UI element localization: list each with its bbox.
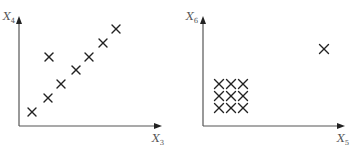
x-marker-icon [215,92,224,101]
left-x-axis-arrow-icon [154,123,162,129]
left-data-points [28,25,120,116]
x-marker-icon [28,108,36,116]
x-marker-icon [72,66,80,74]
x-marker-icon [57,80,65,88]
scatter-figure: X4 X3 X6 X5 [0,0,364,151]
right-data-points [215,45,329,113]
x-marker-icon [227,92,236,101]
x-marker-icon [239,104,248,113]
left-y-axis-label: X4 [2,10,16,25]
x-marker-icon [320,45,329,54]
x-marker-icon [99,39,107,47]
x-marker-icon [215,104,224,113]
x-marker-icon [45,53,53,61]
x-marker-icon [85,53,93,61]
right-y-axis-label: X6 [185,10,199,25]
right-plot: X6 X5 [185,10,349,147]
left-y-axis-arrow-icon [16,16,22,24]
x-marker-icon [44,94,52,102]
left-x-axis-label: X3 [151,132,164,147]
x-marker-icon [239,92,248,101]
x-marker-icon [215,80,224,89]
left-plot: X4 X3 [2,10,164,147]
x-marker-icon [239,80,248,89]
right-x-axis-arrow-icon [337,123,345,129]
x-marker-icon [227,104,236,113]
x-marker-icon [227,80,236,89]
x-marker-icon [112,25,120,33]
right-x-axis-label: X5 [336,132,349,147]
right-y-axis-arrow-icon [200,16,206,24]
